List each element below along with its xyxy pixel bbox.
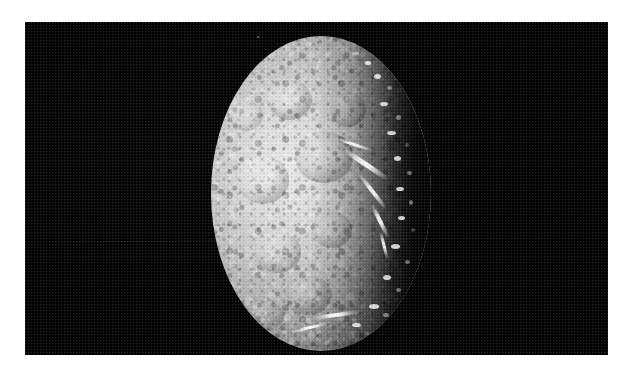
photograph-frame	[25, 22, 608, 355]
moon-disk	[211, 36, 431, 351]
image-caption	[0, 0, 1, 1]
moon-body	[211, 36, 431, 351]
limb-highlight	[211, 36, 431, 351]
screenshot-root	[0, 0, 637, 377]
